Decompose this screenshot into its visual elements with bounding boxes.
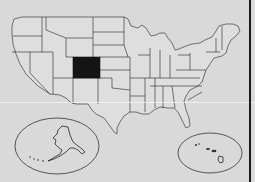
scan-artifact-line	[0, 102, 255, 103]
contiguous-us-outline	[12, 17, 240, 134]
hawaii-inset-frame	[178, 133, 242, 173]
aleutian-islands	[29, 156, 44, 162]
state-colorado-highlighted	[73, 57, 100, 78]
alaska-shape	[48, 126, 85, 161]
us-map	[0, 0, 255, 182]
hawaii-islands	[195, 143, 217, 152]
hawaii-big-island	[218, 156, 223, 163]
us-map-svg	[0, 0, 255, 182]
right-edge-border	[249, 0, 251, 182]
